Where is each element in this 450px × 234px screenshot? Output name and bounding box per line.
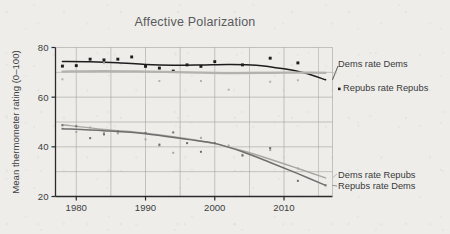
data-point: [61, 124, 63, 126]
y-tick-label: 60: [38, 92, 49, 103]
data-point: [61, 65, 64, 68]
data-point: [269, 81, 271, 83]
legend-leader-line: [333, 185, 338, 186]
data-point: [116, 58, 119, 61]
affective-polarization-chart: Affective Polarization Mean thermometer …: [0, 0, 450, 234]
legend-label: Repubs rate Repubs: [343, 83, 429, 93]
data-point: [296, 61, 299, 64]
data-point: [145, 132, 147, 134]
data-series: [61, 55, 327, 186]
data-point: [269, 57, 272, 60]
data-point: [145, 138, 147, 140]
data-point: [325, 184, 327, 186]
data-point: [297, 180, 299, 182]
data-point: [200, 80, 202, 82]
y-tick-label: 80: [38, 42, 49, 53]
data-point: [172, 131, 174, 133]
series-repubs-rate-repubs: [61, 62, 325, 91]
x-tick-label: 1990: [135, 202, 156, 213]
data-point: [213, 60, 216, 63]
data-point: [89, 58, 92, 61]
data-point: [61, 78, 63, 80]
data-point: [297, 167, 299, 169]
data-point: [241, 63, 244, 66]
legend-label: Dems rate Repubs: [338, 170, 416, 180]
series-dems-rate-repubs: [61, 125, 325, 178]
data-point: [103, 133, 105, 135]
legend-label: Dems rate Dems: [338, 59, 408, 69]
data-point: [158, 80, 160, 82]
x-tick-label: 1980: [66, 202, 87, 213]
data-point: [241, 155, 243, 157]
data-point: [75, 64, 78, 67]
trend-line: [62, 71, 325, 73]
data-point: [214, 142, 216, 144]
data-point: [269, 147, 271, 149]
data-point: [89, 126, 91, 128]
data-point: [117, 132, 119, 134]
data-point: [186, 63, 189, 66]
y-tick-label: 20: [38, 191, 49, 202]
y-tick-label: 40: [38, 141, 49, 152]
chart-title: Affective Polarization: [135, 15, 256, 29]
data-point: [297, 79, 299, 81]
chart-legend: Dems rate DemsRepubs rate RepubsDems rat…: [333, 59, 429, 191]
data-point: [89, 137, 91, 139]
data-point: [200, 151, 202, 153]
data-point: [75, 125, 77, 127]
data-point: [199, 65, 202, 68]
y-axis-label: Mean thermometer rating (0–100): [10, 50, 21, 193]
data-point: [186, 142, 188, 144]
legend-leader-line: [333, 174, 338, 178]
x-tick-label: 2000: [204, 202, 225, 213]
series-repubs-rate-dems: [61, 124, 326, 186]
data-point: [158, 144, 160, 146]
data-point: [228, 89, 230, 91]
data-point: [117, 130, 119, 132]
trend-line: [62, 125, 325, 178]
data-point: [144, 65, 147, 68]
legend-label: Repubs rate Dems: [338, 181, 416, 191]
x-tick-label: 2010: [273, 202, 294, 213]
trend-line: [62, 129, 325, 186]
data-point: [269, 149, 271, 151]
series-dems-rate-dems: [61, 55, 326, 79]
data-point: [172, 152, 174, 154]
chart-canvas: Affective Polarization Mean thermometer …: [0, 0, 450, 234]
legend-marker-dot: [338, 88, 341, 91]
data-point: [75, 131, 77, 133]
data-point: [103, 58, 106, 61]
x-axis-ticks: 1980199020002010: [66, 197, 295, 214]
data-point: [130, 55, 133, 58]
data-point: [158, 67, 161, 70]
y-axis-ticks: 20406080: [38, 42, 56, 202]
data-point: [103, 62, 105, 64]
data-point: [200, 137, 202, 139]
